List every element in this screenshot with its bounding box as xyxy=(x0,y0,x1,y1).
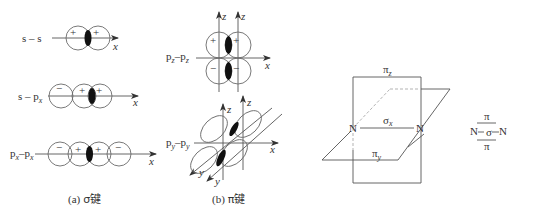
sign-minus: − xyxy=(233,62,239,74)
sign-plus: + xyxy=(70,26,76,38)
s-px-label: s – px xyxy=(18,90,43,105)
x-axis-label: x xyxy=(264,59,270,71)
sigma-bond-label: σ xyxy=(486,126,492,138)
py-py-label: py–py xyxy=(166,136,190,151)
sign-plus: + xyxy=(93,26,99,38)
z-axis-label: z xyxy=(246,96,252,108)
z-axis-label: z xyxy=(226,103,232,115)
n2-bond-planes: N N πz σx πy xyxy=(322,63,450,183)
caption-a: (a)σ键 xyxy=(68,192,101,206)
sign-minus: − xyxy=(210,62,216,74)
y-axis-label: y xyxy=(198,166,204,178)
x-axis-label: x xyxy=(132,96,138,108)
pi-bond-bottom-label: π xyxy=(484,140,490,152)
sign-minus: − xyxy=(56,141,62,153)
overlap-region xyxy=(86,146,93,162)
sign-minus: − xyxy=(115,141,121,153)
sign-plus: + xyxy=(233,34,239,46)
px-px-overlap: px–px − + + − x xyxy=(10,141,156,167)
pi-y-plane-edge xyxy=(398,89,450,160)
y-axis-label: y xyxy=(214,175,220,187)
sign-minus: − xyxy=(56,82,62,94)
sign-plus: + xyxy=(96,84,102,96)
x-axis-label: x xyxy=(269,143,275,155)
sign-plus: + xyxy=(79,84,85,96)
x-axis-label: x xyxy=(112,40,118,52)
overlap-region xyxy=(89,88,96,104)
atom-n-left: N xyxy=(349,122,357,134)
bond-diagram: s – s + + x s – px − + + x px–px xyxy=(0,0,544,213)
s-s-label: s – s xyxy=(22,32,42,44)
pi-y-plane-edge xyxy=(322,131,351,160)
s-px-overlap: s – px − + + x xyxy=(18,82,138,108)
s-s-overlap: s – s + + x xyxy=(22,26,118,52)
overlap-region-lower xyxy=(225,62,232,80)
z-axis-label: z xyxy=(221,10,227,22)
z-axis-label: z xyxy=(240,10,246,22)
n2-triple-bond-scheme: π N σ N π xyxy=(470,110,507,152)
sign-plus: + xyxy=(75,143,81,155)
sign-plus: + xyxy=(210,34,216,46)
atom-n-right: N xyxy=(499,125,507,137)
sigma-x-label: σx xyxy=(383,114,393,128)
atom-n-right: N xyxy=(416,122,424,134)
pi-bond-top-label: π xyxy=(484,110,490,122)
overlap-region xyxy=(85,30,92,46)
py-lobe-left-upper xyxy=(196,111,233,148)
pz-pz-overlap: + + − − z z x pz–pz xyxy=(166,10,270,92)
caption-b: (b)π键 xyxy=(212,192,245,206)
panel-b-pi-bonds: + + − − z z x pz–pz z z x y y xyxy=(166,10,282,206)
x-axis-label: x xyxy=(148,155,154,167)
pz-pz-label: pz–pz xyxy=(166,50,190,65)
py-py-overlap: z z x y y py–py xyxy=(166,96,282,187)
y-axis-1 xyxy=(190,108,272,175)
panel-a-sigma-bonds: s – s + + x s – px − + + x px–px xyxy=(10,26,156,206)
overlap-region-upper xyxy=(225,36,232,54)
pi-z-label: πz xyxy=(383,63,393,78)
pi-z-plane-bottom xyxy=(353,128,421,183)
px-px-label: px–px xyxy=(10,147,34,162)
atom-n-left: N xyxy=(470,125,478,137)
sign-plus: + xyxy=(95,143,101,155)
